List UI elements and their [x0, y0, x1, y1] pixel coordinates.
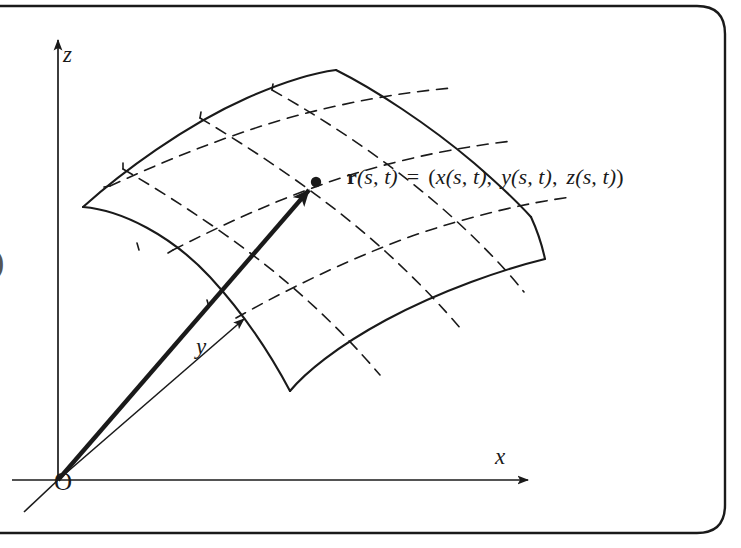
formula-component-z-args: (s, t): [575, 164, 616, 189]
formula-separator-2: ,: [552, 164, 558, 189]
surface-point: [311, 177, 321, 187]
origin-label: O: [54, 468, 72, 496]
surface-edge-ticks: [104, 84, 273, 307]
formula-open-paren: (: [428, 164, 435, 189]
formula-close-paren: ): [616, 164, 623, 189]
formula-component-y-fn: y: [501, 164, 511, 189]
formula-component-y-args: (s, t): [511, 164, 552, 189]
vector-formula: r(s, t)=(x(s, t),y(s, t),z(s, t)): [347, 164, 624, 190]
x-axis-label: x: [495, 444, 505, 470]
figure-root: z y x O r(s, t)=(x(s, t),y(s, t),z(s, t)…: [0, 0, 741, 548]
formula-vector-symbol: r: [347, 164, 357, 189]
z-axis-label: z: [63, 42, 72, 68]
figure-canvas: [0, 0, 741, 548]
position-vector: [58, 190, 309, 480]
surface-boundary: [83, 70, 545, 391]
parametric-surface-patch: [83, 70, 571, 391]
formula-component-x-args: (s, t): [446, 164, 487, 189]
formula-separator-1: ,: [487, 164, 493, 189]
formula-component-x-fn: x: [436, 164, 446, 189]
page-edge-glyph: ): [0, 243, 4, 281]
formula-vector-params: (s, t): [357, 164, 398, 189]
y-axis-label: y: [196, 334, 206, 360]
formula-component-z-fn: z: [567, 164, 576, 189]
formula-equals: =: [407, 164, 420, 189]
